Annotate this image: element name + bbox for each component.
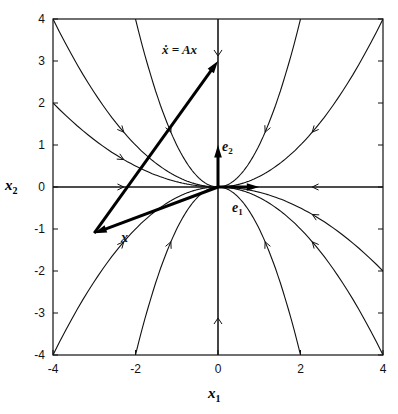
e1-label: e1 xyxy=(232,200,243,217)
vector-ax xyxy=(94,69,212,233)
y-tick-label: 4 xyxy=(38,12,45,26)
vector-e1-arrowhead-icon xyxy=(247,183,259,191)
x2-label-main: x xyxy=(5,177,13,193)
x1-label-sub: 1 xyxy=(216,393,221,404)
y-tick-label: -1 xyxy=(34,222,45,236)
trajectory xyxy=(218,19,383,187)
trajectory-arrow-icon xyxy=(117,154,124,160)
equation-label: ẋ = Ax xyxy=(161,42,198,57)
trajectory xyxy=(218,187,383,355)
x-tick-label: -2 xyxy=(130,362,141,376)
x-tick-label: 4 xyxy=(380,362,387,376)
x-tick-label: 2 xyxy=(297,362,304,376)
x-vector-label: x xyxy=(120,230,128,245)
y-tick-label: -2 xyxy=(34,264,45,278)
x-axis-label: x1 xyxy=(208,385,221,404)
e2-label: e2 xyxy=(222,139,233,156)
x2-label-sub: 2 xyxy=(13,185,18,196)
trajectory xyxy=(53,187,218,355)
trajectory xyxy=(218,19,301,187)
y-tick-label: 0 xyxy=(38,180,45,194)
x-tick-label: -4 xyxy=(48,362,59,376)
x-tick-label: 0 xyxy=(215,362,222,376)
phase-portrait: -4-202443210-1-2-3-4ẋ = Axxe1e2 xyxy=(0,0,398,414)
vector-e2-arrowhead-icon xyxy=(214,145,222,157)
trajectory-arrow-icon xyxy=(312,214,319,220)
trajectory xyxy=(218,187,301,355)
y-tick-label: 1 xyxy=(38,138,45,152)
y-tick-label: -4 xyxy=(34,348,45,362)
x1-label-main: x xyxy=(208,385,216,401)
y-tick-label: -3 xyxy=(34,306,45,320)
y-axis-label: x2 xyxy=(5,177,18,196)
y-tick-label: 2 xyxy=(38,96,45,110)
y-tick-label: 3 xyxy=(38,54,45,68)
